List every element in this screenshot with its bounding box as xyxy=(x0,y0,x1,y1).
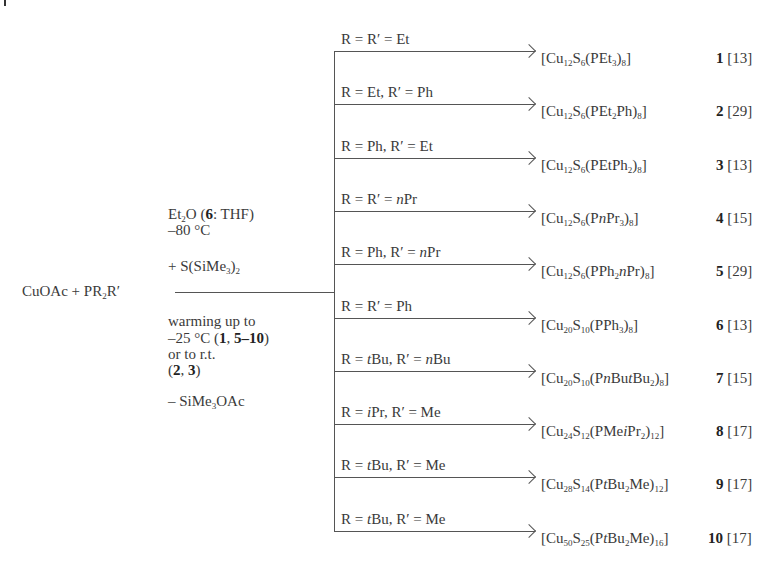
compound-number: 8 xyxy=(716,423,724,439)
compound-reference: 8 [17] xyxy=(716,423,752,440)
page-corner-mark xyxy=(4,0,6,6)
product-formula: [Cu20S10(PPh3)8] xyxy=(541,317,638,334)
reaction-line xyxy=(175,292,334,293)
product-formula: [Cu12S6(PPh2nPr)8] xyxy=(541,263,654,280)
arrowhead-icon xyxy=(522,151,536,165)
text: + S(SiMe xyxy=(168,258,226,274)
temperature-condition: –80 °C xyxy=(168,222,210,239)
arrowhead-icon xyxy=(522,417,536,431)
arrowhead-icon xyxy=(522,204,536,218)
reactants-prime: R′ xyxy=(107,283,120,299)
text: ) xyxy=(196,362,201,378)
citation: [17] xyxy=(723,530,752,546)
text: – SiMe xyxy=(168,393,212,409)
citation: [29] xyxy=(724,103,753,119)
text: : THF) xyxy=(213,206,254,222)
arrowhead-icon xyxy=(522,524,536,538)
citation: [17] xyxy=(724,476,753,492)
citation: [17] xyxy=(724,423,753,439)
arrowhead-icon xyxy=(522,311,536,325)
compound-number: 7 xyxy=(716,370,724,386)
compound-number: 5 xyxy=(716,263,724,279)
compound-reference: 5 [29] xyxy=(716,263,752,280)
branch-arrow-line xyxy=(334,264,535,265)
branch-condition-label: R = tBu, R′ = Me xyxy=(341,511,445,528)
warming-temp-condition: –25 °C (1, 5–10) xyxy=(168,330,269,347)
rt-compounds: (2, 3) xyxy=(168,362,201,379)
branch-arrow-line xyxy=(334,158,535,159)
text: , xyxy=(181,362,189,378)
branch-arrow-line xyxy=(334,371,535,372)
compound-ref: 5–10 xyxy=(234,330,264,346)
citation: [13] xyxy=(724,50,753,66)
branch-condition-label: R = Ph, R′ = nPr xyxy=(341,244,440,261)
citation: [29] xyxy=(724,263,753,279)
compound-reference: 10 [17] xyxy=(708,530,752,547)
product-formula: [Cu12S6(PEtPh2)8] xyxy=(541,157,647,174)
branch-condition-label: R = tBu, R′ = nBu xyxy=(341,351,450,368)
product-formula: [Cu50S25(PtBu2Me)16] xyxy=(541,530,668,547)
branch-condition-label: R = iPr, R′ = Me xyxy=(341,404,441,421)
reagent-condition: + S(SiMe3)2 xyxy=(168,258,240,275)
reactants-text: CuOAc + PR xyxy=(22,283,102,299)
citation: [13] xyxy=(724,157,753,173)
text: O ( xyxy=(186,206,206,222)
branch-condition-label: R = R′ = Et xyxy=(341,31,410,48)
arrowhead-icon xyxy=(522,44,536,58)
arrowhead-icon xyxy=(522,470,536,484)
compound-reference: 6 [13] xyxy=(716,317,752,334)
text: Et xyxy=(168,206,181,222)
arrowhead-icon xyxy=(522,364,536,378)
compound-ref: 3 xyxy=(188,362,196,378)
solvent-condition: Et2O (6: THF) xyxy=(168,206,254,223)
product-formula: [Cu20S10(PnButBu2)8] xyxy=(541,370,669,387)
branch-condition-label: R = R′ = Ph xyxy=(341,298,412,315)
compound-number: 6 xyxy=(716,317,724,333)
product-formula: [Cu12S6(PnPr3)8] xyxy=(541,210,639,227)
branch-arrow-line xyxy=(334,477,535,478)
byproduct: – SiMe3OAc xyxy=(168,393,245,410)
branch-arrow-line xyxy=(334,104,535,105)
warming-condition: warming up to xyxy=(168,313,256,330)
text: , xyxy=(227,330,235,346)
compound-reference: 9 [17] xyxy=(716,476,752,493)
text: –25 °C ( xyxy=(168,330,219,346)
product-formula: [Cu12S6(PEt2Ph)8] xyxy=(541,103,647,120)
arrowhead-icon xyxy=(522,97,536,111)
compound-reference: 4 [15] xyxy=(716,210,752,227)
product-formula: [Cu24S12(PMeiPr2)12] xyxy=(541,423,664,440)
compound-ref: 1 xyxy=(219,330,227,346)
reactants: CuOAc + PR2R′ xyxy=(22,283,120,300)
compound-number: 3 xyxy=(716,157,724,173)
product-formula: [Cu28S14(PtBu2Me)12] xyxy=(541,476,668,493)
branch-vertical-line xyxy=(334,51,335,531)
subscript: 2 xyxy=(236,266,241,276)
branch-condition-label: R = Ph, R′ = Et xyxy=(341,138,433,155)
text: OAc xyxy=(216,393,244,409)
arrowhead-icon xyxy=(522,257,536,271)
product-formula: [Cu12S6(PEt3)8] xyxy=(541,50,631,67)
compound-reference: 2 [29] xyxy=(716,103,752,120)
compound-number: 4 xyxy=(716,210,724,226)
text: ) xyxy=(264,330,269,346)
branch-condition-label: R = R′ = nPr xyxy=(341,191,417,208)
branch-arrow-line xyxy=(334,318,535,319)
compound-ref: 2 xyxy=(173,362,181,378)
branch-arrow-line xyxy=(334,211,535,212)
compound-reference: 1 [13] xyxy=(716,50,752,67)
citation: [13] xyxy=(724,317,753,333)
compound-number: 10 xyxy=(708,530,723,546)
citation: [15] xyxy=(724,210,753,226)
compound-number: 1 xyxy=(716,50,724,66)
citation: [15] xyxy=(724,370,753,386)
compound-number: 9 xyxy=(716,476,724,492)
compound-number: 2 xyxy=(716,103,724,119)
branch-condition-label: R = Et, R′ = Ph xyxy=(341,84,433,101)
branch-arrow-line xyxy=(334,51,535,52)
compound-ref: 6 xyxy=(205,206,213,222)
compound-reference: 7 [15] xyxy=(716,370,752,387)
branch-arrow-line xyxy=(334,531,535,532)
branch-arrow-line xyxy=(334,424,535,425)
compound-reference: 3 [13] xyxy=(716,157,752,174)
branch-condition-label: R = tBu, R′ = Me xyxy=(341,457,445,474)
